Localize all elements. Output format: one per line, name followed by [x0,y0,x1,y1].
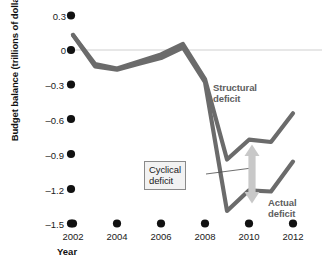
cyclical-deficit-leader-line [206,168,252,174]
y-axis-tick-dots [67,11,75,227]
annotation-structural-deficit: Structural deficit [213,82,257,104]
budget-balance-line-chart: Budget balance (trillions of dollars) Ye… [0,0,329,267]
annotation-actual-deficit: Actual deficit [268,197,296,219]
series-line-structural-deficit [73,35,293,160]
annotation-structural-deficit-line2: deficit [213,93,240,104]
x-axis-tick-dots [69,219,297,227]
cyclical-deficit-arrow [245,145,260,204]
annotation-cyclical-deficit-line2: deficit [149,175,173,186]
annotation-actual-deficit-line1: Actual [268,197,296,208]
annotation-cyclical-deficit-line1: Cyclical [149,164,181,175]
plot-area [0,0,329,267]
annotation-actual-deficit-line2: deficit [268,208,295,219]
annotation-structural-deficit-line1: Structural [213,82,257,93]
annotation-cyclical-deficit: Cyclical deficit [144,161,186,190]
